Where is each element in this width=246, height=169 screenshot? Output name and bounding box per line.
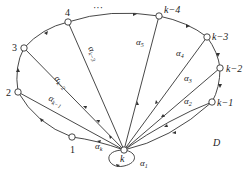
label-3: 3 bbox=[12, 42, 17, 53]
node-k-1 bbox=[209, 99, 215, 105]
spoke-edges bbox=[18, 16, 220, 167]
label-k-4: k−4 bbox=[164, 4, 180, 15]
node-k-4 bbox=[156, 13, 162, 19]
alpha-k-1: αk−1 bbox=[47, 93, 65, 109]
label-dots: ··· bbox=[93, 2, 103, 13]
alpha-k-2: αk−2 bbox=[52, 73, 70, 91]
label-1: 1 bbox=[70, 144, 75, 155]
edge-labels: αk αk−1 αk−2 αk−3 α5 α4 α3 α2 α1 bbox=[47, 37, 192, 169]
label-2: 2 bbox=[6, 87, 11, 98]
node-1 bbox=[69, 134, 75, 140]
node-4 bbox=[65, 19, 71, 25]
node-k-3 bbox=[204, 34, 210, 40]
alpha-k-3: αk−3 bbox=[85, 45, 101, 63]
alpha-3: α3 bbox=[184, 73, 192, 84]
label-k-3: k−3 bbox=[212, 31, 228, 42]
label-k: k bbox=[120, 153, 125, 164]
label-k-1: k−1 bbox=[217, 97, 233, 108]
node-labels: 1 2 3 4 ··· k−4 k−3 k−2 k−1 k D bbox=[6, 2, 242, 164]
alpha-2: α2 bbox=[184, 96, 192, 107]
alpha-5: α5 bbox=[136, 37, 144, 48]
alpha-1: α1 bbox=[140, 158, 148, 169]
alpha-4: α4 bbox=[176, 48, 184, 59]
region-label-D: D bbox=[212, 137, 221, 148]
label-k-2: k−2 bbox=[226, 63, 242, 74]
label-4: 4 bbox=[65, 7, 70, 18]
node-k-2 bbox=[217, 65, 223, 71]
graph-diagram: 1 2 3 4 ··· k−4 k−3 k−2 k−1 k D αk αk−1 … bbox=[0, 0, 246, 169]
node-3 bbox=[21, 45, 27, 51]
node-2 bbox=[15, 89, 21, 95]
